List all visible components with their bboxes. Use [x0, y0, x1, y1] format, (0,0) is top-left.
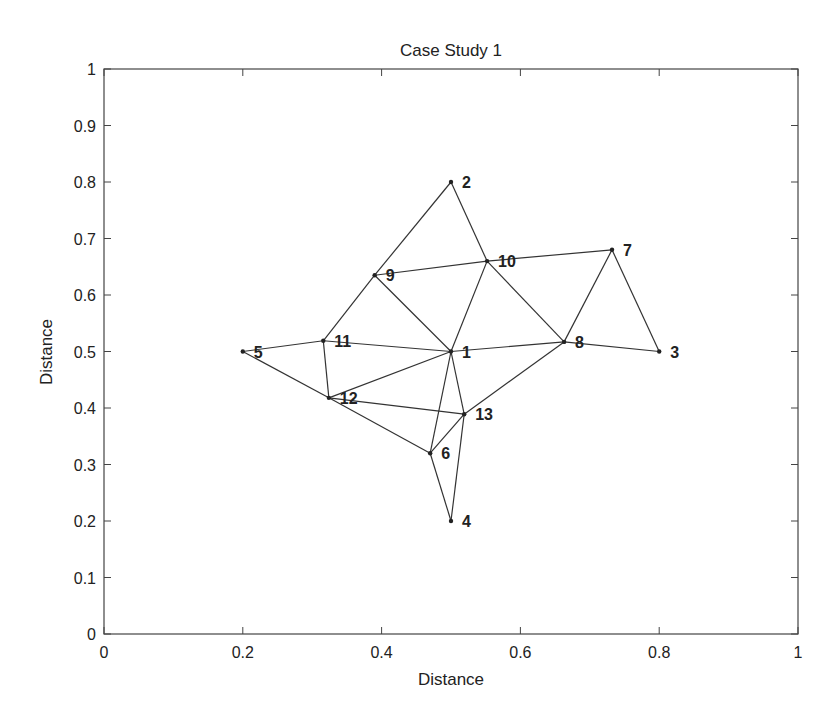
node-label-2: 2 — [462, 174, 471, 191]
edge-1-6 — [430, 352, 451, 454]
edge-6-4 — [430, 453, 451, 521]
edge-1-13 — [451, 352, 464, 415]
y-tick-label: 0.4 — [74, 400, 96, 417]
node-label-5: 5 — [254, 344, 263, 361]
y-tick-label: 0.9 — [74, 118, 96, 135]
edge-13-8 — [464, 342, 564, 414]
chart-title: Case Study 1 — [400, 41, 502, 60]
node-2 — [449, 180, 453, 184]
nodes-layer — [241, 180, 662, 523]
node-label-1: 1 — [462, 344, 471, 361]
y-tick-label: 0.2 — [74, 513, 96, 530]
node-3 — [657, 349, 661, 353]
node-labels-layer: 12345678910111213 — [254, 174, 679, 530]
node-label-11: 11 — [334, 333, 351, 350]
node-label-12: 12 — [340, 390, 358, 407]
y-axis-title: Distance — [37, 319, 56, 385]
x-tick-label: 0.4 — [370, 644, 392, 661]
node-label-6: 6 — [441, 445, 450, 462]
edge-11-12 — [323, 341, 329, 398]
node-8 — [562, 340, 566, 344]
node-10 — [485, 259, 489, 263]
x-tick-label: 0.6 — [509, 644, 531, 661]
edge-10-1 — [451, 261, 487, 351]
node-12 — [327, 396, 331, 400]
y-tick-label: 0 — [87, 626, 96, 643]
node-11 — [321, 339, 325, 343]
x-tick-label: 0 — [100, 644, 109, 661]
node-label-8: 8 — [575, 334, 584, 351]
edge-7-3 — [612, 250, 659, 352]
network-chart: Case Study 1 12345678910111213 00.20.40.… — [0, 0, 833, 716]
edge-7-8 — [564, 250, 612, 342]
node-label-9: 9 — [386, 267, 395, 284]
x-tick-label: 0.2 — [232, 644, 254, 661]
node-7 — [610, 248, 614, 252]
y-tick-label: 0.5 — [74, 344, 96, 361]
node-5 — [241, 349, 245, 353]
node-4 — [449, 519, 453, 523]
edge-9-1 — [375, 275, 451, 351]
node-label-7: 7 — [623, 242, 632, 259]
node-6 — [428, 451, 432, 455]
edge-10-8 — [487, 261, 564, 342]
node-13 — [462, 412, 466, 416]
node-9 — [372, 273, 376, 277]
y-tick-label: 0.7 — [74, 231, 96, 248]
edge-2-9 — [375, 182, 451, 275]
edge-2-10 — [451, 182, 487, 261]
node-1 — [449, 349, 453, 353]
x-axis-title: Distance — [418, 670, 484, 689]
edge-13-4 — [451, 414, 464, 521]
node-label-10: 10 — [498, 253, 516, 270]
x-tick-label: 0.8 — [648, 644, 670, 661]
y-tick-label: 0.3 — [74, 457, 96, 474]
y-tick-label: 1 — [87, 61, 96, 78]
edge-9-11 — [323, 275, 374, 341]
node-label-3: 3 — [670, 344, 679, 361]
node-label-13: 13 — [475, 406, 493, 423]
y-tick-label: 0.8 — [74, 174, 96, 191]
x-tick-label: 1 — [794, 644, 803, 661]
x-axis-ticks: 00.20.40.60.81 — [100, 69, 803, 661]
node-label-4: 4 — [462, 513, 471, 530]
y-tick-label: 0.6 — [74, 287, 96, 304]
y-tick-label: 0.1 — [74, 570, 96, 587]
y-axis-ticks: 00.10.20.30.40.50.60.70.80.91 — [74, 61, 798, 643]
